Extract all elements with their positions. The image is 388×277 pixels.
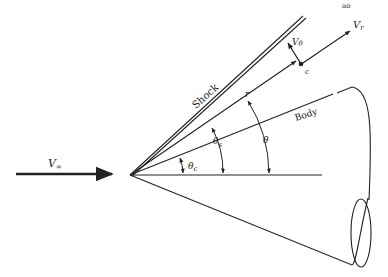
theta-label: θ <box>263 135 269 145</box>
top-fragment-text: ao <box>342 2 350 10</box>
ray-r-label: r <box>245 89 250 99</box>
cone-body-upper-edge <box>130 87 352 175</box>
radial-velocity-arrow <box>300 31 350 65</box>
point-c-label: c <box>305 68 309 76</box>
theta-cone-label: θc <box>188 161 197 173</box>
cone-body-outline <box>130 87 370 265</box>
conical-flow-diagram: ao V∞ Shock c Vr Vθ r Body θc θs θ <box>0 0 388 277</box>
shock-wave-line <box>130 16 306 176</box>
theta-shock-label: θs <box>213 136 222 149</box>
radial-velocity-label: Vr <box>353 19 364 32</box>
theta-cone-arc <box>180 158 183 173</box>
ray-r-line <box>130 61 296 175</box>
theta-shock-arc <box>212 128 223 173</box>
tangential-velocity-label: Vθ <box>292 37 304 48</box>
freestream-velocity-label: V∞ <box>48 157 62 171</box>
